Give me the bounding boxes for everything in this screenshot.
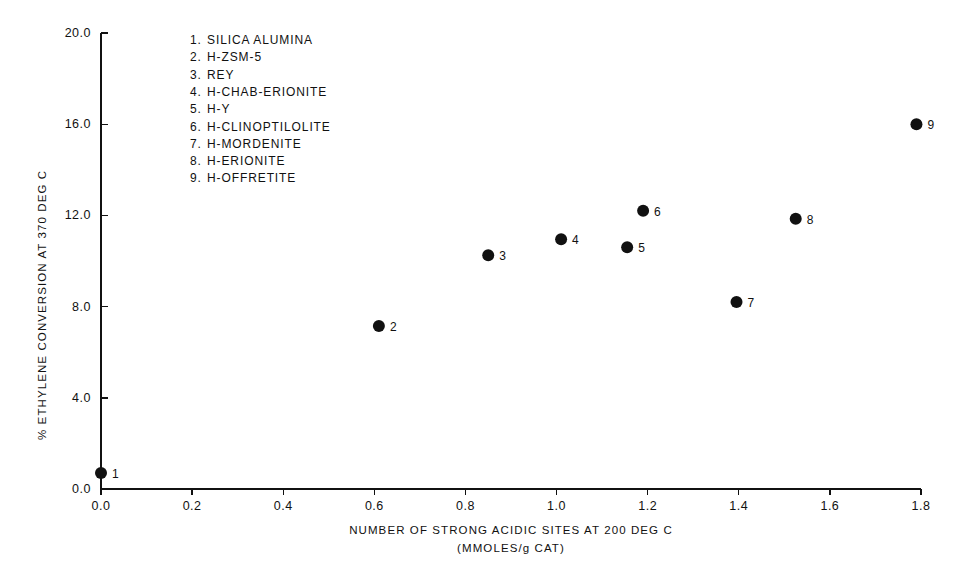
y-tick-label-3: 12.0: [65, 208, 91, 222]
legend-item-number-1: 1.: [190, 33, 207, 47]
legend-item-label-5: H-Y: [207, 102, 230, 116]
legend-item-6: 6.H-CLINOPTILOLITE: [190, 120, 331, 134]
x-tick-label-7: 1.4: [729, 499, 748, 513]
x-tick-label-2: 0.4: [274, 499, 293, 513]
plot-axes-svg: [0, 0, 980, 571]
legend-item-2: 2.H-ZSM-5: [190, 50, 262, 64]
x-axis-title: NUMBER OF STRONG ACIDIC SITES AT 200 DEG…: [349, 524, 673, 536]
data-point-7[interactable]: [731, 296, 743, 308]
legend-item-label-4: H-CHAB-ERIONITE: [207, 85, 327, 99]
legend-item-label-9: H-OFFRETITE: [207, 171, 296, 185]
legend-item-number-9: 9.: [190, 171, 207, 185]
x-tick-label-9: 1.8: [912, 499, 931, 513]
legend-item-label-2: H-ZSM-5: [207, 50, 262, 64]
legend-item-3: 3.REY: [190, 68, 234, 82]
data-point-5[interactable]: [621, 241, 633, 253]
data-point-annotation-7: 7: [748, 296, 755, 310]
data-point-1[interactable]: [95, 467, 107, 479]
legend-item-number-8: 8.: [190, 154, 207, 168]
data-point-annotation-5: 5: [638, 241, 645, 255]
data-point-9[interactable]: [910, 118, 922, 130]
legend-item-number-6: 6.: [190, 120, 207, 134]
x-tick-label-6: 1.2: [638, 499, 657, 513]
x-tick-label-0: 0.0: [92, 499, 111, 513]
y-axis-title: % ETHYLENE CONVERSION AT 370 DEG C: [36, 170, 48, 440]
y-tick-label-0: 0.0: [72, 482, 91, 496]
x-axis-units-label: (MMOLES/g CAT): [457, 542, 565, 554]
y-tick-label-2: 8.0: [72, 300, 91, 314]
data-point-annotation-1: 1: [112, 467, 119, 481]
legend-item-label-7: H-MORDENITE: [207, 137, 302, 151]
data-point-3[interactable]: [482, 249, 494, 261]
data-point-2[interactable]: [373, 320, 385, 332]
legend-item-number-5: 5.: [190, 102, 207, 116]
data-point-8[interactable]: [790, 213, 802, 225]
legend-item-number-7: 7.: [190, 137, 207, 151]
data-point-annotation-8: 8: [807, 213, 814, 227]
legend-item-4: 4.H-CHAB-ERIONITE: [190, 85, 327, 99]
legend-item-label-3: REY: [207, 68, 234, 82]
y-tick-label-1: 4.0: [72, 391, 91, 405]
scatter-chart-figure: 0.00.20.40.60.81.01.21.41.61.80.04.08.01…: [0, 0, 980, 571]
data-point-annotation-2: 2: [390, 320, 397, 334]
legend-item-8: 8.H-ERIONITE: [190, 154, 285, 168]
x-tick-label-1: 0.2: [183, 499, 202, 513]
legend-item-5: 5.H-Y: [190, 102, 230, 116]
legend-item-7: 7.H-MORDENITE: [190, 137, 302, 151]
data-point-4[interactable]: [555, 233, 567, 245]
data-point-annotation-4: 4: [572, 233, 579, 247]
legend-item-9: 9.H-OFFRETITE: [190, 171, 296, 185]
y-tick-label-4: 16.0: [65, 117, 91, 131]
legend-item-number-3: 3.: [190, 68, 207, 82]
y-tick-label-5: 20.0: [65, 26, 91, 40]
legend-item-label-1: SILICA ALUMINA: [207, 33, 313, 47]
x-tick-label-3: 0.6: [365, 499, 384, 513]
data-point-annotation-9: 9: [927, 118, 934, 132]
legend-item-label-6: H-CLINOPTILOLITE: [207, 120, 331, 134]
x-tick-label-8: 1.6: [820, 499, 839, 513]
legend-item-number-2: 2.: [190, 50, 207, 64]
legend-item-1: 1.SILICA ALUMINA: [190, 33, 313, 47]
legend-item-number-4: 4.: [190, 85, 207, 99]
x-tick-label-5: 1.0: [547, 499, 566, 513]
data-point-annotation-3: 3: [499, 249, 506, 263]
x-tick-label-4: 0.8: [456, 499, 475, 513]
data-point-annotation-6: 6: [654, 205, 661, 219]
legend-item-label-8: H-ERIONITE: [207, 154, 285, 168]
data-point-6[interactable]: [637, 205, 649, 217]
